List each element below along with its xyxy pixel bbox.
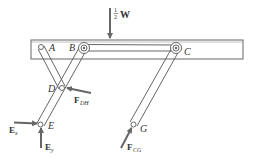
pin-e bbox=[38, 122, 43, 127]
linkage-diagram: A B C D E G 1 2 W F DH E x E y F CG bbox=[0, 0, 253, 166]
pin-d bbox=[60, 86, 65, 91]
link-bc bbox=[84, 45, 176, 52]
svg-text:2: 2 bbox=[114, 14, 117, 20]
label-d: D bbox=[47, 83, 56, 94]
label-f-cg: F CG bbox=[127, 142, 142, 153]
label-f-dh: F DH bbox=[74, 95, 89, 106]
label-e-y: E y bbox=[45, 142, 54, 153]
svg-text:DH: DH bbox=[79, 100, 89, 106]
svg-text:y: y bbox=[50, 147, 54, 153]
f-dh-arrow bbox=[67, 88, 91, 93]
label-a: A bbox=[48, 42, 56, 53]
label-half-w: 1 2 W bbox=[114, 7, 131, 20]
label-e: E bbox=[47, 120, 54, 131]
pin-a bbox=[39, 45, 44, 50]
e-x-arrow bbox=[14, 123, 37, 124]
svg-text:x: x bbox=[14, 130, 18, 136]
link-cg bbox=[130, 46, 180, 126]
pin-g bbox=[131, 122, 136, 127]
label-e-x: E x bbox=[9, 125, 18, 136]
label-c: C bbox=[184, 46, 191, 57]
pin-c bbox=[171, 43, 182, 54]
svg-text:CG: CG bbox=[133, 147, 142, 153]
label-g: G bbox=[140, 123, 147, 134]
svg-text:W: W bbox=[120, 9, 130, 20]
svg-text:1: 1 bbox=[114, 7, 117, 13]
platform-beam bbox=[31, 40, 243, 59]
label-b: B bbox=[69, 42, 75, 53]
pin-b bbox=[79, 43, 90, 54]
